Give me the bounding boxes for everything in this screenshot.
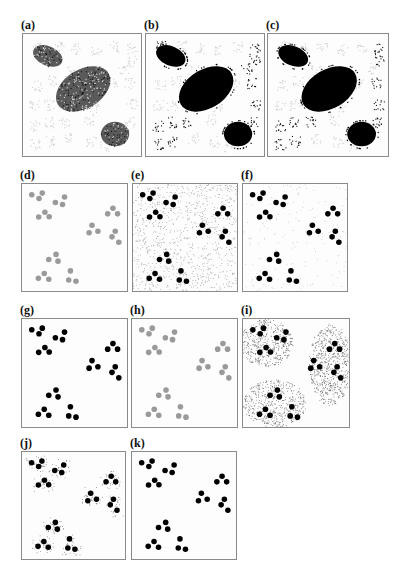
panel-label-g: (g) <box>20 304 34 316</box>
panel-label-e: (e) <box>131 169 144 181</box>
panel-label-h: (h) <box>130 304 145 316</box>
panel-image-a <box>22 33 142 157</box>
panel-label-b: (b) <box>144 19 159 31</box>
panel-image-c <box>267 33 389 157</box>
panel-image-j <box>21 451 126 560</box>
panel-image-d <box>21 183 128 292</box>
panel-label-k: (k) <box>130 437 145 449</box>
panel-image-k <box>131 451 237 560</box>
panel-label-j: (j) <box>20 437 32 449</box>
panel-image-f <box>242 183 348 292</box>
panel-image-e <box>132 183 238 292</box>
panel-label-f: (f) <box>241 169 253 181</box>
panel-image-g <box>21 318 128 428</box>
panel-image-b <box>145 33 265 157</box>
panel-label-d: (d) <box>20 169 35 181</box>
panel-label-c: (c) <box>266 19 279 31</box>
panel-image-i <box>242 318 350 428</box>
panel-label-a: (a) <box>21 19 35 31</box>
panel-label-i: (i) <box>241 304 252 316</box>
panel-image-h <box>131 318 238 428</box>
